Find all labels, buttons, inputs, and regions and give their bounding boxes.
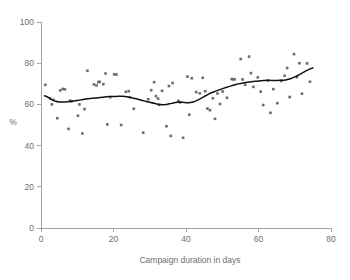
data-point [241, 78, 244, 81]
data-point [221, 90, 224, 93]
data-point [95, 84, 98, 87]
data-point [298, 62, 301, 65]
x-tick-label: 40 [181, 234, 191, 244]
data-point [226, 97, 229, 100]
data-point [283, 74, 286, 77]
data-point [212, 97, 215, 100]
data-point [171, 82, 174, 85]
data-point [248, 55, 251, 58]
data-point [214, 118, 217, 121]
data-point [78, 103, 81, 106]
data-point [64, 88, 67, 91]
data-point [161, 90, 164, 93]
x-tick-label: 60 [254, 234, 264, 244]
data-point [204, 90, 207, 93]
data-point [56, 117, 59, 120]
y-tick-label: 40 [25, 141, 35, 151]
data-point [219, 103, 222, 106]
data-point [188, 113, 191, 116]
chart-canvas: 020406080100 020406080 % Campaign durati… [0, 0, 350, 280]
data-point [59, 89, 62, 92]
y-tick-label: 20 [25, 182, 35, 192]
data-point [209, 109, 212, 112]
data-point-markers [44, 53, 311, 139]
data-point [86, 70, 89, 73]
data-point [276, 102, 279, 105]
data-point [239, 58, 242, 61]
data-point [244, 84, 247, 87]
trend-line [45, 68, 313, 105]
scatter-chart: 020406080100 020406080 % Campaign durati… [0, 0, 350, 280]
data-point [155, 95, 158, 98]
y-tick-label: 0 [29, 223, 34, 233]
data-point [120, 124, 123, 127]
data-point [198, 92, 201, 95]
data-point [157, 97, 160, 100]
data-point [250, 72, 253, 75]
data-point [98, 80, 101, 83]
data-point [169, 135, 172, 138]
data-point [165, 125, 168, 128]
x-axis-title: Campaign duration in days [139, 255, 240, 265]
data-point [272, 88, 275, 91]
data-point [67, 128, 70, 131]
data-point [286, 67, 289, 70]
data-point [259, 90, 262, 93]
data-point [81, 132, 84, 135]
data-point [147, 98, 150, 101]
data-point [216, 92, 219, 95]
y-tick-label: 60 [25, 99, 35, 109]
data-point [115, 73, 118, 76]
x-tick-label: 80 [326, 234, 336, 244]
data-point [262, 104, 265, 107]
data-point [102, 83, 105, 86]
data-point [306, 62, 309, 65]
data-point [125, 91, 128, 94]
data-point [77, 114, 80, 117]
x-axis-ticks: 020406080 [39, 228, 336, 244]
data-point [186, 75, 189, 78]
data-point [150, 89, 153, 92]
data-point [93, 83, 96, 86]
data-point [195, 91, 198, 94]
x-tick-label: 0 [39, 234, 44, 244]
data-point [233, 78, 236, 81]
data-point [269, 112, 272, 115]
data-point [256, 76, 259, 79]
data-point [182, 136, 185, 139]
data-point [168, 85, 171, 88]
data-point [252, 86, 255, 89]
data-point [83, 108, 86, 111]
y-axis-title: % [9, 117, 17, 127]
data-point [309, 80, 312, 83]
y-tick-label: 80 [25, 58, 35, 68]
data-point [127, 90, 130, 93]
data-point [206, 107, 209, 110]
data-point [153, 81, 156, 84]
data-point [104, 72, 107, 75]
data-point [288, 96, 291, 99]
data-point [201, 77, 204, 80]
data-point [51, 103, 54, 106]
x-tick-label: 20 [109, 234, 119, 244]
data-point [142, 131, 145, 134]
data-point [44, 84, 47, 87]
data-point [293, 53, 296, 56]
data-point [191, 77, 194, 80]
y-tick-label: 100 [20, 17, 34, 27]
data-point [301, 92, 304, 95]
data-point [133, 107, 136, 110]
data-point [106, 123, 109, 126]
y-axis-ticks: 020406080100 [20, 17, 41, 233]
